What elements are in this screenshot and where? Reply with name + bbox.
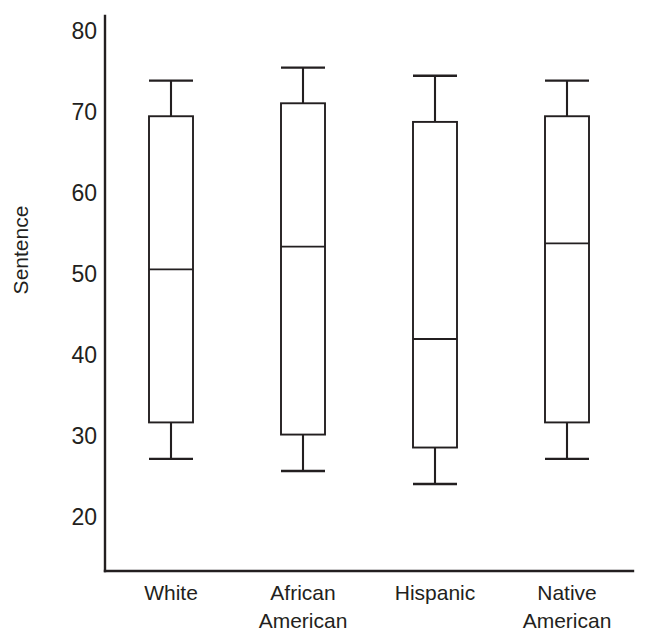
y-tick-label: 80 — [71, 18, 97, 44]
x-category-label: American — [523, 609, 612, 632]
x-category-label: African — [270, 581, 335, 604]
box-body — [281, 103, 325, 434]
box-body — [545, 116, 589, 422]
boxplot-canvas: 20304050607080 WhiteAfricanAmericanHispa… — [0, 0, 646, 642]
boxplot-item — [149, 81, 193, 459]
boxplot-item — [413, 76, 457, 484]
y-tick-label: 70 — [71, 99, 97, 125]
boxplot-item — [281, 68, 325, 471]
y-axis-title-text: Sentence — [9, 206, 32, 295]
x-category-label: White — [144, 581, 198, 604]
boxplot-item — [545, 81, 589, 459]
x-category-label: Native — [537, 581, 597, 604]
y-axis-title: Sentence — [9, 206, 32, 295]
y-tick-label: 30 — [71, 423, 97, 449]
box-body — [413, 122, 457, 448]
x-category-label: Hispanic — [395, 581, 476, 604]
y-tick-label: 50 — [71, 261, 97, 287]
boxplot-chart: 20304050607080 WhiteAfricanAmericanHispa… — [0, 0, 646, 642]
y-tick-label: 60 — [71, 180, 97, 206]
y-axis-tick-labels: 20304050607080 — [71, 18, 97, 530]
x-category-label: American — [259, 609, 348, 632]
y-tick-label: 20 — [71, 504, 97, 530]
y-tick-label: 40 — [71, 342, 97, 368]
box-series — [149, 68, 589, 484]
x-axis-category-labels: WhiteAfricanAmericanHispanicNativeAmeric… — [144, 581, 611, 632]
